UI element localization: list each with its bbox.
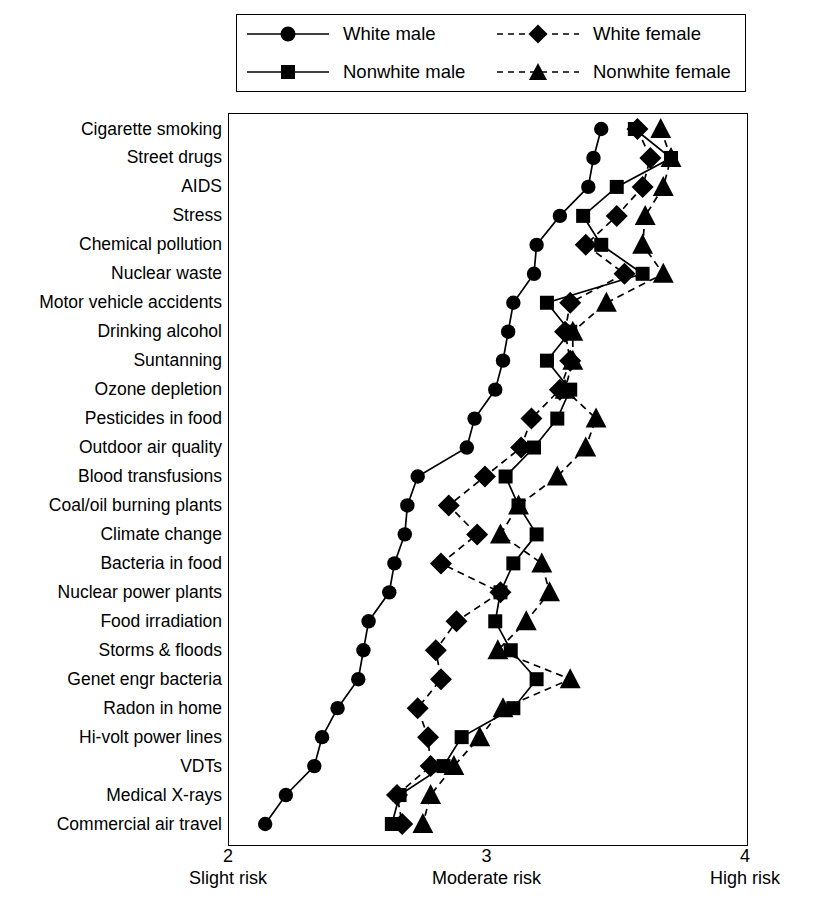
- data-point-circle: [411, 469, 425, 483]
- data-point-square: [506, 556, 520, 570]
- data-point-circle: [594, 122, 608, 136]
- legend-label-white-male: White male: [331, 25, 436, 44]
- data-point-diamond: [407, 697, 429, 719]
- data-point-diamond: [417, 726, 439, 748]
- data-point-diamond: [559, 292, 581, 314]
- data-point-diamond: [510, 437, 532, 459]
- data-point-triangle: [661, 147, 682, 167]
- data-point-circle: [581, 180, 595, 194]
- series-line: [392, 129, 671, 824]
- data-point-triangle: [635, 205, 656, 225]
- data-point-circle: [460, 440, 474, 454]
- data-point-square: [488, 614, 502, 628]
- data-point-square: [636, 267, 650, 281]
- x-axis-tick: 3Moderate risk: [432, 846, 541, 889]
- risk-perception-chart: White male White female: [0, 0, 820, 916]
- x-tick-caption: High risk: [710, 867, 780, 890]
- category-label: Climate change: [0, 526, 222, 544]
- category-label: Pesticides in food: [0, 410, 222, 428]
- data-point-circle: [307, 759, 321, 773]
- legend-label-nonwhite-female: Nonwhite female: [581, 63, 731, 82]
- data-point-triangle: [508, 494, 529, 514]
- data-point-square: [455, 730, 469, 744]
- category-label: Suntanning: [0, 352, 222, 370]
- x-tick-caption: Slight risk: [189, 867, 267, 890]
- data-point-triangle: [490, 523, 511, 543]
- data-point-triangle: [575, 437, 596, 457]
- category-label: Food irradiation: [0, 613, 222, 631]
- data-point-square: [530, 672, 544, 686]
- category-label: Street drugs: [0, 150, 222, 168]
- category-label: Motor vehicle accidents: [0, 295, 222, 313]
- data-point-triangle: [420, 784, 441, 804]
- category-label: Cigarette smoking: [0, 121, 222, 139]
- category-label: Nuclear waste: [0, 266, 222, 284]
- data-point-circle: [496, 353, 510, 367]
- data-point-square: [540, 354, 554, 368]
- series-line: [397, 129, 650, 824]
- x-tick-value: 2: [189, 846, 267, 867]
- legend-item-white-female[interactable]: White female: [487, 15, 747, 53]
- data-point-triangle: [586, 408, 607, 428]
- data-point-square: [540, 296, 554, 310]
- x-tick-caption: Moderate risk: [432, 867, 541, 890]
- data-point-circle: [356, 643, 370, 657]
- data-point-triangle: [653, 263, 674, 283]
- category-label: Blood transfusions: [0, 468, 222, 486]
- data-point-diamond: [474, 466, 496, 488]
- data-point-circle: [467, 411, 481, 425]
- x-axis-tick: 4High risk: [710, 846, 780, 889]
- series-white-female: [386, 118, 661, 835]
- category-label: Genet engr bacteria: [0, 671, 222, 689]
- category-label: Chemical pollution: [0, 237, 222, 255]
- data-point-square: [530, 527, 544, 541]
- legend-swatch-white-male: [245, 21, 331, 47]
- data-point-circle: [400, 498, 414, 512]
- series-nonwhite-female: [412, 118, 681, 833]
- data-point-diamond: [425, 639, 447, 661]
- data-point-triangle: [547, 466, 568, 486]
- data-point-triangle: [539, 581, 560, 601]
- category-label: Coal/oil burning plants: [0, 497, 222, 515]
- series-nonwhite-male: [385, 122, 678, 831]
- plot-area: [228, 113, 748, 846]
- legend-item-white-male[interactable]: White male: [237, 15, 487, 53]
- x-tick-value: 3: [432, 846, 541, 867]
- legend-item-nonwhite-male[interactable]: Nonwhite male: [237, 53, 487, 91]
- x-axis-tick: 2Slight risk: [189, 846, 267, 889]
- data-point-circle: [506, 296, 520, 310]
- category-label: VDTs: [0, 758, 222, 776]
- category-label: Radon in home: [0, 700, 222, 718]
- category-label: Outdoor air quality: [0, 439, 222, 457]
- legend-swatch-white-female: [495, 21, 581, 47]
- data-point-diamond: [430, 552, 452, 574]
- category-label: Commercial air travel: [0, 816, 222, 834]
- data-point-triangle: [412, 813, 433, 833]
- series-line: [265, 129, 601, 824]
- data-point-triangle: [650, 118, 671, 138]
- data-point-circle: [330, 701, 344, 715]
- data-point-diamond: [386, 784, 408, 806]
- legend-swatch-nonwhite-female: [495, 59, 581, 85]
- legend-item-nonwhite-female[interactable]: Nonwhite female: [487, 53, 747, 91]
- value-axis: 2Slight risk3Moderate risk4High risk: [0, 846, 820, 916]
- category-label: Bacteria in food: [0, 555, 222, 573]
- legend-swatch-nonwhite-male: [245, 59, 331, 85]
- legend-label-white-female: White female: [581, 25, 701, 44]
- category-label: Ozone depletion: [0, 381, 222, 399]
- data-point-diamond: [489, 581, 511, 603]
- category-label: Storms & floods: [0, 642, 222, 660]
- chart-legend: White male White female: [236, 14, 746, 92]
- data-point-circle: [488, 382, 502, 396]
- data-point-triangle: [596, 292, 617, 312]
- category-label: Medical X-rays: [0, 787, 222, 805]
- data-point-circle: [387, 556, 401, 570]
- data-point-circle: [527, 267, 541, 281]
- series-canvas: [229, 114, 746, 844]
- data-point-circle: [279, 788, 293, 802]
- data-point-circle: [361, 614, 375, 628]
- data-point-diamond: [420, 755, 442, 777]
- data-point-triangle: [653, 176, 674, 196]
- data-point-diamond: [466, 523, 488, 545]
- data-point-circle: [315, 730, 329, 744]
